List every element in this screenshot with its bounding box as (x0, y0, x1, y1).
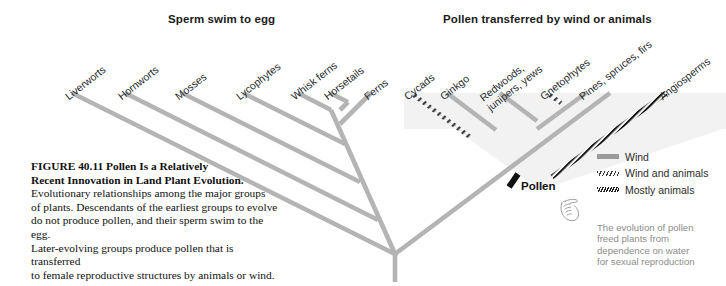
legend-item-wind-and-animals: Wind and animals (597, 167, 725, 181)
figure-caption: FIGURE 40.11 Pollen Is a Relatively Rece… (31, 160, 283, 282)
legend-swatch-wind-and-animals-icon (597, 171, 619, 176)
legend-item-mostly-animals: Mostly animals (597, 183, 725, 197)
annotation-line-1: The evolution of pollen (597, 222, 723, 233)
pollen-annotation: The evolution of pollen freed plants fro… (597, 222, 723, 267)
annotation-line-4: for sexual reproduction (597, 256, 723, 267)
header-pollen-transfer: Pollen transferred by wind or animals (443, 13, 652, 25)
pollen-node-label: Pollen (521, 180, 556, 192)
pollen-synapomorphy-marker (509, 174, 518, 187)
backbone-nonseed (331, 110, 395, 254)
caption-line-2: of plants. Descendants of the earliest g… (31, 201, 283, 215)
legend-swatch-mostly-animals-icon (597, 187, 619, 192)
annotation-line-2: freed plants from (597, 233, 723, 244)
caption-title-line1: FIGURE 40.11 Pollen Is a Relatively (31, 160, 283, 174)
caption-line-5: to female reproductive structures by ani… (31, 269, 283, 283)
caption-line-3: do not produce pollen, and their sperm s… (31, 214, 283, 241)
legend: Wind Wind and animals Mostly animals (597, 150, 725, 200)
legend-item-wind: Wind (597, 150, 725, 164)
header-sperm-swim: Sperm swim to egg (168, 13, 275, 25)
node-horsetails-ferns (340, 102, 348, 110)
caption-line-4: Later-evolving groups produce pollen tha… (31, 242, 283, 269)
caption-line-1: Evolutionary relationships among the maj… (31, 187, 283, 201)
legend-swatch-wind-icon (597, 154, 619, 159)
legend-label-wind: Wind (625, 151, 649, 163)
legend-label-wind-and-animals: Wind and animals (625, 167, 708, 179)
annotation-line-3: dependence on water (597, 245, 723, 256)
legend-label-mostly-animals: Mostly animals (625, 184, 694, 196)
caption-title-line2: Recent Innovation in Land Plant Evolutio… (31, 174, 283, 188)
pointing-hand-icon (561, 199, 579, 220)
